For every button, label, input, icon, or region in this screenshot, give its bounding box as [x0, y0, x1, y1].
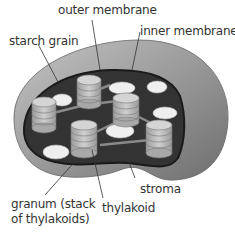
label-granum-line2: of thylakoids) [11, 212, 89, 226]
label-granum-line1: granum (stack [11, 197, 96, 211]
label-inner-membrane: inner membrane [140, 24, 235, 38]
label-thylakoid: thylakoid [102, 201, 155, 215]
label-outer-membrane: outer membrane [58, 3, 157, 17]
label-starch-grain: starch grain [9, 34, 78, 48]
label-stroma: stroma [140, 182, 181, 196]
